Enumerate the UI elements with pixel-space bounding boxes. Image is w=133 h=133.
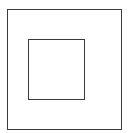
- diagram-canvas: [0, 0, 133, 133]
- inner-square: [28, 39, 85, 100]
